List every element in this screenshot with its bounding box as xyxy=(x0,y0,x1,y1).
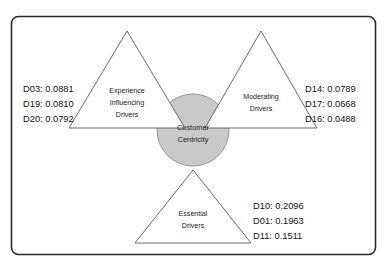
tri-label-line: Moderating xyxy=(243,93,279,101)
score-group-essential: D10: 0.2096 D01: 0.1963 D11: 0.1511 xyxy=(253,201,304,241)
score-item: D20: 0.0792 xyxy=(23,114,74,124)
score-item: D16: 0.0488 xyxy=(305,114,356,124)
tri-label-line: Drivers xyxy=(250,105,273,113)
score-group-moderating: D14: 0.0789 D17: 0.0668 D16: 0.0488 xyxy=(305,84,356,124)
center-label-line: Centricity xyxy=(178,135,209,144)
tri-label-line: Drivers xyxy=(182,222,205,230)
center-label-line: Customer xyxy=(177,123,210,132)
score-group-experience-influencing: D03: 0.0881 D19: 0.0810 D20: 0.0792 xyxy=(23,84,74,124)
score-item: D03: 0.0881 xyxy=(23,84,74,94)
score-item: D11: 0.1511 xyxy=(253,231,302,241)
tri-label-line: Influencing xyxy=(110,99,144,107)
score-item: D01: 0.1963 xyxy=(253,216,304,226)
score-item: D10: 0.2096 xyxy=(253,201,304,211)
score-item: D14: 0.0789 xyxy=(305,84,356,94)
score-item: D19: 0.0810 xyxy=(23,99,74,109)
tri-label-line: Drivers xyxy=(116,111,139,119)
tri-label-line: Experience xyxy=(109,87,145,95)
diagram-canvas: Experience Influencing Drivers Moderatin… xyxy=(0,0,388,274)
score-item: D17: 0.0668 xyxy=(305,99,356,109)
tri-label-line: Essential xyxy=(179,210,208,218)
